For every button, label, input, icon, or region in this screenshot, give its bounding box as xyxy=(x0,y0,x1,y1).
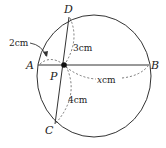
arrow-head-icon xyxy=(43,51,48,57)
diagram-canvas: D A B P C 2cm 3cm 4cm xcm xyxy=(0,0,166,148)
label-2cm: 2cm xyxy=(9,38,29,48)
label-c: C xyxy=(45,124,54,137)
label-4cm: 4cm xyxy=(68,95,88,105)
label-x-unit: cm xyxy=(102,75,116,85)
label-b: B xyxy=(150,59,159,72)
label-p: P xyxy=(49,70,58,83)
label-3cm: 3cm xyxy=(73,43,93,53)
label-d: D xyxy=(63,3,73,16)
label-xcm: xcm xyxy=(97,75,116,85)
dash-arc-ap xyxy=(40,60,63,65)
label-a: A xyxy=(25,59,34,72)
arrow-2cm xyxy=(30,43,46,56)
point-p xyxy=(61,62,67,68)
